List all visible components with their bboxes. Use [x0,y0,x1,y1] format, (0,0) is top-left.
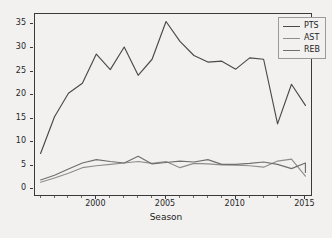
legend-item-ast[interactable]: AST [283,33,320,43]
x-tick-mark-minor [207,196,208,198]
y-tick-label: 10 [2,137,26,145]
y-tick-mark [30,94,33,95]
x-tick-mark-minor [54,196,55,198]
series-line-pts [41,22,306,154]
x-axis-label: Season [0,212,332,222]
x-tick-mark-minor [249,196,250,198]
x-tick-mark-minor [193,196,194,198]
x-tick-label: 2010 [225,200,245,208]
legend-item-pts[interactable]: PTS [283,21,320,31]
y-tick-mark [30,47,33,48]
y-tick-mark [30,165,33,166]
x-tick-mark-minor [67,196,68,198]
legend-swatch-pts [283,26,300,27]
legend-item-reb[interactable]: REB [283,45,320,55]
plot-area [34,13,312,196]
x-tick-mark-minor [151,196,152,198]
y-tick-mark [30,118,33,119]
x-tick-mark-minor [123,196,124,198]
x-tick-mark-minor [81,196,82,198]
y-tick-label: 35 [2,19,26,27]
legend-label-pts: PTS [304,22,319,30]
x-tick-label: 2005 [155,200,175,208]
y-tick-label: 25 [2,67,26,75]
y-tick-mark [30,23,33,24]
x-tick-mark-minor [40,196,41,198]
x-tick-mark-minor [277,196,278,198]
y-tick-label: 30 [2,43,26,51]
series-lines [35,14,311,195]
x-tick-mark-minor [263,196,264,198]
x-tick-mark-minor [137,196,138,198]
y-tick-label: 0 [2,184,26,192]
x-tick-mark-minor [109,196,110,198]
x-tick-label: 2015 [294,200,314,208]
y-tick-label: 20 [2,90,26,98]
legend-swatch-reb [283,50,300,51]
y-tick-mark [30,71,33,72]
legend-label-ast: AST [304,34,319,42]
x-tick-mark-minor [290,196,291,198]
legend-label-reb: REB [304,46,320,54]
x-tick-label: 2000 [85,200,105,208]
y-tick-mark [30,141,33,142]
y-tick-label: 5 [2,161,26,169]
legend-swatch-ast [283,38,300,39]
y-tick-mark [30,188,33,189]
y-tick-label: 15 [2,114,26,122]
x-tick-mark-minor [179,196,180,198]
chart-legend: PTS AST REB [278,17,326,59]
x-tick-mark-minor [221,196,222,198]
chart-figure: 05101520253035 2000200520102015 Season P… [0,0,332,238]
